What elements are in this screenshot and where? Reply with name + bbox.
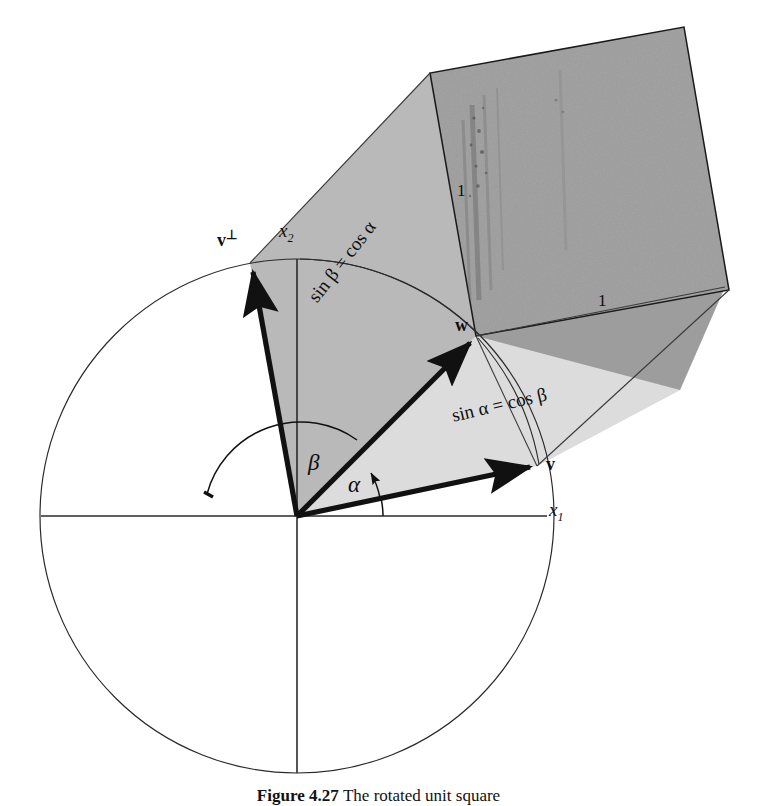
angle-label-alpha: α (348, 473, 360, 496)
figure-caption-text: The rotated unit square (343, 786, 500, 805)
x1-axis-label: x1 (549, 500, 563, 523)
x1-axis-subscript: 1 (557, 510, 563, 524)
vector-w-label: w (455, 316, 468, 334)
figure-caption: Figure 4.27 The rotated unit square (0, 786, 757, 806)
vector-v-perp-label: v⊥ (217, 228, 237, 249)
figure-root: x2 x1 v⊥ v w β α sin β = cos α sin α = c… (0, 0, 757, 806)
square-side-label-bottom: 1 (598, 292, 607, 309)
angle-label-beta: β (308, 451, 319, 474)
square-side-label-left: 1 (457, 182, 466, 199)
perpendicular-icon: ⊥ (226, 227, 237, 242)
angle-arc-alpha-base (381, 498, 383, 516)
x2-axis-label: x2 (279, 221, 293, 244)
geometry-diagram (0, 0, 757, 806)
figure-caption-number: Figure 4.27 (257, 786, 339, 805)
vector-v-label: v (546, 455, 555, 473)
vector-v-perp-letter: v (217, 230, 226, 250)
x2-axis-subscript: 2 (287, 231, 293, 245)
angle-arc-beta-tick (204, 492, 213, 497)
